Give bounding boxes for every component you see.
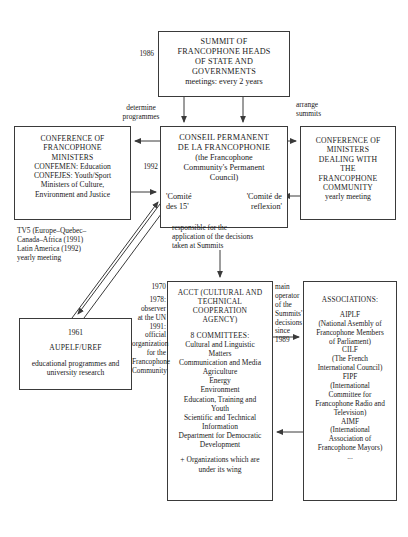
aupelf-year: 1961 (20, 328, 131, 337)
acct-committees-heading: 8 COMMITTEES: (168, 331, 272, 340)
cpf-sub-1: (the Francophone (161, 153, 287, 163)
cpf-line-1: CONSEIL PERMANENT (161, 133, 287, 143)
acct-committee-2: Communication and Media (168, 358, 272, 367)
acct-line-1: ACCT (CULTURAL AND (168, 288, 272, 297)
label-acct-main-operator: main operator of the Summits' decisions … (275, 283, 303, 345)
summit-line-3: OF STATE AND (159, 57, 289, 67)
minfrcom-line-2: MINISTERS (301, 145, 395, 154)
tv5-line-3: Latin America (1992) (17, 244, 135, 253)
confmin-detail-1: CONFEMEN: Education (15, 162, 130, 171)
acct-committee-7: Scientific and Technical (168, 413, 272, 422)
label-summit-year: 1986 (120, 50, 154, 59)
cpf-comite-reflexion[interactable]: 'Comité de reflexion' (247, 192, 282, 212)
assoc-entry-17: ... (304, 453, 396, 462)
acct-line-2: TECHNICAL (168, 297, 272, 306)
confmin-line-2: FRANCOPHONE (15, 143, 130, 152)
minfrcom-line-6: COMMUNITY (301, 183, 395, 192)
acct-committee-8: Department for Democratic (168, 431, 272, 440)
confmin-detail-3: Ministers of Culture, (15, 180, 130, 189)
cpf-line-2: DE LA FRANCOPHONIE (161, 143, 287, 153)
cpf-comite-15-line-2: des 15' (166, 202, 192, 212)
summit-subtitle: meetings: every 2 years (159, 77, 289, 87)
box-acct[interactable]: ACCT (CULTURAL AND TECHNICAL COOPERATION… (167, 281, 273, 501)
tv5-line-4: yearly meeting (17, 253, 135, 262)
confmin-line-3: MINISTERS (15, 153, 130, 162)
confmin-detail-2: CONFEJES: Youth/Sport (15, 171, 130, 180)
determine-line-2: programmes (112, 112, 170, 121)
summit-line-2: FRANCOPHONE HEADS (159, 47, 289, 57)
cpf-comite-15[interactable]: 'Comité des 15' (166, 192, 192, 212)
cpf-comite-15-line-1: 'Comité (166, 192, 192, 202)
label-tv5: TV5 (Europe–Quebec– Canada–Africa (1991)… (17, 226, 135, 262)
acct-left-line-10: Community (132, 367, 166, 376)
label-arrange-summits: arrange summits (296, 100, 340, 118)
arrange-line-2: summits (296, 109, 340, 118)
aupelf-name: AUPELF/UREF (20, 343, 131, 352)
label-cpf-year: 1992 (130, 163, 158, 172)
cpf-comite-reflexion-line-2: reflexion' (247, 202, 282, 212)
minfrcom-line-1: CONFERENCE OF (301, 136, 395, 145)
acct-right-line-7: 1989 (275, 336, 303, 345)
tv5-line-1: TV5 (Europe–Quebec– (17, 226, 135, 235)
label-determine-programmes: determine programmes (112, 103, 170, 121)
acct-line-3: COOPERATION (168, 306, 272, 315)
box-aupelf-uref[interactable]: 1961 AUPELF/UREF educational programmes … (19, 318, 132, 390)
label-responsible-for-application: responsible for the application of the d… (172, 223, 264, 250)
acct-committee-5: Environment (168, 385, 272, 394)
aupelf-desc-2: university research (20, 368, 131, 377)
minfrcom-subtitle: yearly meeting (301, 192, 395, 201)
acct-left-line-1: 1970 (132, 283, 166, 292)
acct-committee-8b: Development (168, 440, 272, 449)
diagram-canvas: SUMMIT OF FRANCOPHONE HEADS OF STATE AND… (0, 0, 408, 537)
acct-committee-6: Education, Training and (168, 395, 272, 404)
minfrcom-line-5: FRANCOPHONE (301, 174, 395, 183)
acct-committee-7b: Information (168, 422, 272, 431)
box-summit[interactable]: SUMMIT OF FRANCOPHONE HEADS OF STATE AND… (158, 31, 290, 97)
confmin-line-1: CONFERENCE OF (15, 134, 130, 143)
tv5-line-2: Canada–Africa (1991) (17, 235, 135, 244)
cpf-comite-reflexion-line-1: 'Comité de (247, 192, 282, 202)
acct-committee-4: Energy (168, 376, 272, 385)
summit-line-4: GOVERNMENTS (159, 67, 289, 77)
responsible-line-2: application of the decisions (172, 232, 264, 241)
responsible-line-3: taken at Summits (172, 241, 264, 250)
acct-committee-3: Agriculture (168, 367, 272, 376)
minfrcom-line-4: THE (301, 164, 395, 173)
minfrcom-line-3: DEALING WITH (301, 155, 395, 164)
label-acct-history: 1970 1978: observer at the UN 1991: offi… (132, 283, 166, 376)
acct-footer-2: under its wing (168, 465, 272, 474)
box-associations[interactable]: ASSOCIATIONS: AIPLF (National Asembly of… (303, 281, 397, 501)
box-conseil-permanent[interactable]: CONSEIL PERMANENT DE LA FRANCOPHONIE (th… (160, 126, 288, 228)
cpf-sub-2: Community's Permanent (161, 163, 287, 173)
responsible-line-1: responsible for the (172, 223, 264, 232)
acct-committee-1: Cultural and Linguistic (168, 340, 272, 349)
confmin-detail-4: Environment and Justice (15, 190, 130, 199)
acct-footer-1: + Organizations which are (168, 455, 272, 464)
acct-committee-1b: Matters (168, 349, 272, 358)
aupelf-desc-1: educational programmes and (20, 359, 131, 368)
box-conference-ministers-dealing[interactable]: CONFERENCE OF MINISTERS DEALING WITH THE… (300, 126, 396, 220)
acct-line-4: AGENCY) (168, 315, 272, 324)
acct-committee-6b: Youth (168, 404, 272, 413)
arrange-line-1: arrange (296, 100, 340, 109)
assoc-heading: ASSOCIATIONS: (304, 296, 396, 305)
box-conference-francophone-ministers[interactable]: CONFERENCE OF FRANCOPHONE MINISTERS CONF… (14, 126, 131, 220)
determine-line-1: determine (112, 103, 170, 112)
summit-line-1: SUMMIT OF (159, 37, 289, 47)
cpf-sub-3: Council) (161, 173, 287, 183)
